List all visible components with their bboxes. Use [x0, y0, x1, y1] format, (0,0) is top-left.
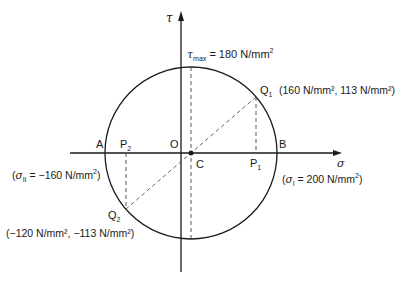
mohr-circle-drawing: [0, 0, 404, 283]
p2-label: P2: [120, 139, 131, 152]
q1-label: Q1: [260, 85, 272, 98]
sigma-1-label: (σI = 200 N/mm2): [282, 172, 362, 187]
q2-label: Q2: [108, 210, 120, 223]
q2-coordinates: (−120 N/mm², −113 N/mm²): [6, 228, 134, 239]
q1-coordinates: (160 N/mm², 113 N/mm²): [279, 85, 395, 96]
tau-max-label: τmax = 180 N/mm2: [187, 47, 274, 62]
centre-label: C: [196, 159, 204, 170]
point-a-label: A: [96, 139, 103, 150]
centre-point: [189, 151, 194, 156]
sigma-2-label: (σII = −160 N/mm2): [12, 168, 101, 183]
sigma-axis-arrow-icon: [333, 150, 342, 156]
sigma-axis-label: σ: [337, 158, 345, 169]
point-b-label: B: [279, 139, 286, 150]
p1-label: P1: [250, 158, 261, 171]
tau-axis-arrow-icon: [178, 11, 184, 21]
tau-axis-label: τ: [166, 12, 173, 24]
origin-label: O: [170, 139, 179, 150]
